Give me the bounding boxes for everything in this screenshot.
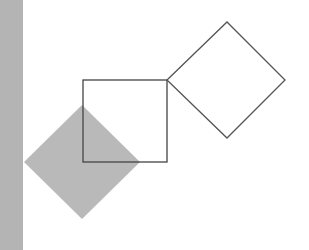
diagram-canvas	[0, 0, 309, 250]
side-bar	[0, 0, 23, 250]
outlined-diamond	[167, 22, 285, 138]
